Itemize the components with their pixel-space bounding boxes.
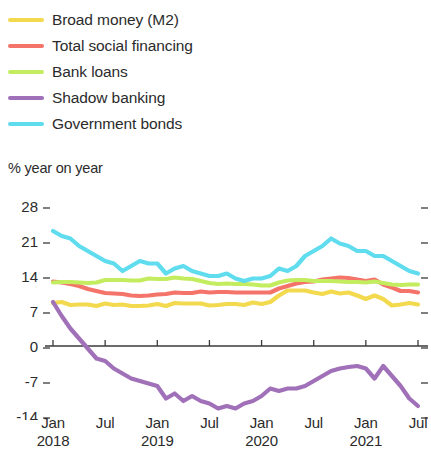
series-line-government-bonds: [53, 231, 418, 281]
legend-item[interactable]: Broad money (M2): [0, 7, 431, 33]
x-axis-label: Jul: [304, 414, 323, 432]
x-axis-label-month: Jul: [304, 414, 323, 431]
legend-swatch-shadow-banking: [8, 96, 44, 100]
y-axis-ticks: 28211470-7-14: [16, 198, 428, 421]
x-axis-label: Jul: [409, 414, 428, 432]
chart-legend: Broad money (M2)Total social financingBa…: [0, 0, 431, 137]
y-tick-label: 21: [21, 233, 38, 250]
legend-item-label: Bank loans: [52, 63, 128, 81]
series-lines: [53, 231, 418, 409]
legend-item-label: Total social financing: [52, 37, 193, 55]
y-tick-label: 7: [30, 303, 38, 320]
y-axis-unit-label: % year on year: [8, 160, 103, 176]
legend-item[interactable]: Bank loans: [0, 59, 431, 85]
legend-item[interactable]: Government bonds: [0, 111, 431, 137]
x-axis-label: Jan2018: [37, 414, 70, 449]
legend-item-label: Broad money (M2): [52, 11, 179, 29]
series-line-shadow-banking: [53, 302, 418, 409]
legend-swatch-cell: [0, 96, 52, 100]
legend-item[interactable]: Total social financing: [0, 33, 431, 59]
y-tick-label: 0: [30, 338, 38, 355]
x-axis-label-month: Jul: [200, 414, 219, 431]
y-tick-label: 28: [21, 198, 38, 215]
x-axis-label-year: 2020: [245, 432, 278, 449]
x-axis-label-month: Jan: [350, 414, 383, 431]
line-chart-svg: 28211470-7-14: [0, 190, 431, 420]
legend-item[interactable]: Shadow banking: [0, 85, 431, 111]
legend-swatch-cell: [0, 70, 52, 74]
legend-item-label: Shadow banking: [52, 89, 165, 107]
x-axis-label-year: 2021: [350, 432, 383, 449]
x-axis-label-year: 2019: [141, 432, 174, 449]
x-axis-label-month: Jul: [409, 414, 428, 431]
chart-plot-area: 28211470-7-14: [0, 190, 431, 420]
x-axis-labels: Jan2018JulJan2019JulJan2020JulJan2021Jul: [0, 414, 431, 462]
x-axis-label-month: Jul: [96, 414, 115, 431]
x-axis-label-month: Jan: [141, 414, 174, 431]
legend-swatch-cell: [0, 18, 52, 22]
legend-swatch-broad-money: [8, 18, 44, 22]
legend-swatch-cell: [0, 122, 52, 126]
x-axis-label-month: Jan: [37, 414, 70, 431]
x-axis-label-year: 2018: [37, 432, 70, 449]
x-axis-label: Jan2019: [141, 414, 174, 449]
legend-swatch-cell: [0, 44, 52, 48]
legend-swatch-bank-loans: [8, 70, 44, 74]
y-tick-label: -7: [25, 373, 38, 390]
x-axis-label-month: Jan: [245, 414, 278, 431]
legend-swatch-total-social-financing: [8, 44, 44, 48]
x-axis-ticks: [53, 340, 418, 346]
x-axis-label: Jan2020: [245, 414, 278, 449]
x-axis-label: Jul: [200, 414, 219, 432]
legend-item-label: Government bonds: [52, 115, 182, 133]
y-tick-label: 14: [21, 268, 38, 285]
x-axis-label: Jul: [96, 414, 115, 432]
legend-swatch-government-bonds: [8, 122, 44, 126]
x-axis-label: Jan2021: [350, 414, 383, 449]
